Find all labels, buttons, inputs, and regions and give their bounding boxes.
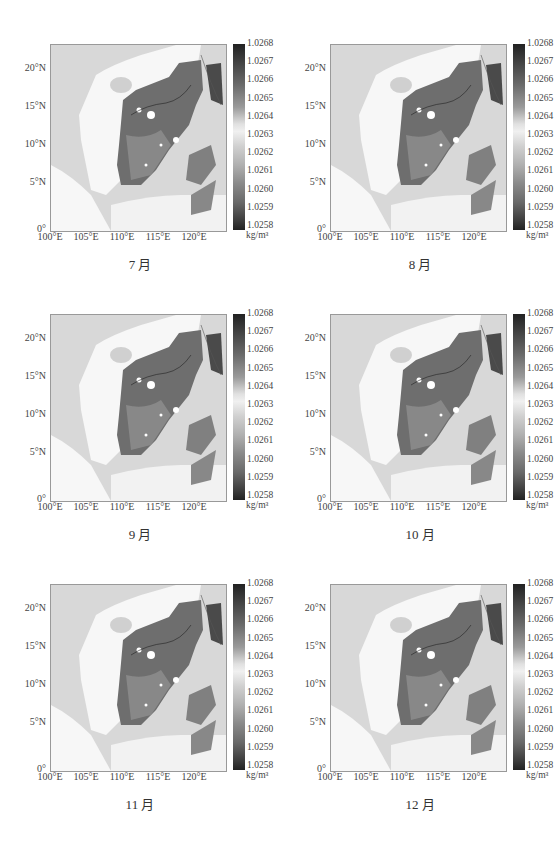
colorbar-tick: 1.0267	[247, 56, 273, 66]
y-tick: 10°N	[6, 408, 46, 419]
colorbar-tick: 1.0259	[527, 472, 553, 482]
y-tick: 5°N	[6, 716, 46, 727]
colorbar-tick: 1.0265	[247, 633, 273, 643]
colorbar-tick: 1.0261	[527, 435, 553, 445]
map-panel-7: 20°N 15°N 10°N 5°N 0° 100°E 105°E 110°E …	[0, 30, 280, 300]
colorbar-tick: 1.0260	[527, 184, 553, 194]
panel-title: 7 月	[0, 254, 280, 273]
colorbar-tick: 1.0260	[527, 454, 553, 464]
panel-title: 9 月	[0, 524, 280, 543]
colorbar-tick: 1.0268	[527, 38, 553, 48]
colorbar-tick: 1.0265	[527, 93, 553, 103]
colorbar-tick: 1.0264	[527, 651, 553, 661]
colorbar-tick: 1.0260	[247, 724, 273, 734]
colorbar-tick: 1.0263	[527, 129, 553, 139]
colorbar-tick: 1.0262	[247, 687, 273, 697]
colorbar-tick: 1.0262	[527, 417, 553, 427]
panel-title: 11 月	[0, 794, 280, 813]
x-tick: 120°E	[174, 771, 214, 782]
y-tick: 20°N	[6, 62, 46, 73]
colorbar-tick: 1.0259	[247, 742, 273, 752]
colorbar-tick: 1.0261	[527, 165, 553, 175]
x-tick: 120°E	[454, 501, 494, 512]
density-map	[51, 315, 226, 501]
y-tick: 10°N	[286, 138, 326, 149]
y-tick: 20°N	[286, 602, 326, 613]
x-tick: 115°E	[138, 501, 178, 512]
y-tick: 5°N	[6, 176, 46, 187]
colorbar-tick: 1.0268	[527, 308, 553, 318]
colorbar-tick: 1.0258	[527, 220, 553, 230]
map-plot-area	[50, 314, 227, 502]
y-tick: 5°N	[286, 446, 326, 457]
colorbar-tick: 1.0263	[247, 129, 273, 139]
colorbar-unit: kg/m³	[246, 230, 268, 240]
y-tick: 15°N	[286, 370, 326, 381]
y-tick: 10°N	[6, 678, 46, 689]
colorbar-tick: 1.0262	[247, 147, 273, 157]
colorbar-tick: 1.0263	[247, 399, 273, 409]
colorbar-tick: 1.0265	[247, 363, 273, 373]
colorbar-tick: 1.0264	[527, 111, 553, 121]
colorbar-tick: 1.0262	[527, 147, 553, 157]
panel-title: 10 月	[280, 524, 560, 543]
colorbar-tick: 1.0258	[247, 760, 273, 770]
y-tick: 15°N	[6, 640, 46, 651]
density-map	[51, 585, 226, 771]
map-panel-9: 20°N 15°N 10°N 5°N 0° 100°E 105°E 110°E …	[0, 300, 280, 570]
map-plot-area	[50, 584, 227, 772]
colorbar	[513, 314, 525, 500]
colorbar-tick: 1.0258	[527, 760, 553, 770]
map-plot-area	[50, 44, 227, 232]
x-tick: 100°E	[30, 231, 70, 242]
y-tick: 5°N	[286, 176, 326, 187]
colorbar-tick: 1.0266	[247, 614, 273, 624]
x-tick: 110°E	[102, 771, 142, 782]
x-tick: 105°E	[346, 231, 386, 242]
x-tick: 100°E	[30, 501, 70, 512]
colorbar-tick: 1.0258	[247, 490, 273, 500]
colorbar-tick: 1.0268	[527, 578, 553, 588]
colorbar-tick: 1.0266	[247, 344, 273, 354]
y-tick: 15°N	[286, 100, 326, 111]
colorbar-tick: 1.0264	[247, 111, 273, 121]
x-tick: 100°E	[310, 231, 350, 242]
colorbar	[233, 44, 245, 230]
colorbar-tick: 1.0268	[247, 578, 273, 588]
colorbar-tick: 1.0268	[247, 308, 273, 318]
colorbar	[233, 314, 245, 500]
colorbar	[513, 584, 525, 770]
colorbar-unit: kg/m³	[246, 770, 268, 780]
colorbar	[233, 584, 245, 770]
x-tick: 105°E	[346, 771, 386, 782]
colorbar-unit: kg/m³	[526, 230, 548, 240]
x-tick: 120°E	[174, 501, 214, 512]
x-tick: 100°E	[310, 501, 350, 512]
x-tick: 105°E	[66, 231, 106, 242]
density-map	[331, 585, 506, 771]
colorbar-tick: 1.0262	[247, 417, 273, 427]
colorbar-tick: 1.0259	[247, 202, 273, 212]
colorbar-tick: 1.0264	[247, 651, 273, 661]
colorbar-tick: 1.0261	[247, 705, 273, 715]
x-tick: 115°E	[138, 231, 178, 242]
colorbar-tick: 1.0267	[527, 326, 553, 336]
map-panel-8: 20°N 15°N 10°N 5°N 0° 100°E 105°E 110°E …	[280, 30, 560, 300]
x-tick: 105°E	[66, 771, 106, 782]
colorbar-tick: 1.0259	[247, 472, 273, 482]
colorbar-tick: 1.0258	[247, 220, 273, 230]
x-tick: 120°E	[454, 771, 494, 782]
y-tick: 15°N	[286, 640, 326, 651]
colorbar-tick: 1.0263	[527, 669, 553, 679]
density-map	[331, 45, 506, 231]
colorbar-tick: 1.0267	[247, 326, 273, 336]
x-tick: 110°E	[102, 501, 142, 512]
map-plot-area	[330, 44, 507, 232]
x-tick: 115°E	[418, 771, 458, 782]
colorbar-tick: 1.0267	[527, 596, 553, 606]
colorbar-tick: 1.0267	[527, 56, 553, 66]
colorbar-tick: 1.0266	[527, 74, 553, 84]
colorbar-tick: 1.0263	[527, 399, 553, 409]
colorbar-unit: kg/m³	[526, 500, 548, 510]
y-tick: 15°N	[6, 100, 46, 111]
